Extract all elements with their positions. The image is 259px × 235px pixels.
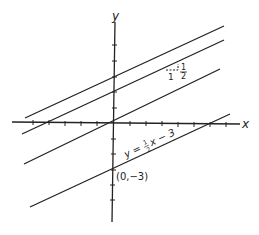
slope-rise-num: 1: [181, 63, 186, 72]
line-intercept-3: [25, 26, 224, 118]
svg-text:y =: y =: [121, 142, 142, 160]
y-axis: [112, 22, 115, 222]
y-axis-label: y: [111, 9, 120, 23]
equation-label: y = 1 2 x − 3: [121, 126, 178, 163]
slope-run-label: 1: [168, 72, 174, 82]
line-intercept-neg3: [30, 114, 230, 207]
x-axis-label: x: [241, 117, 250, 131]
coordinate-diagram: y x 1 1 2 y = 1 2 x − 3 (0,−3): [0, 0, 259, 235]
slope-rise-den: 2: [181, 72, 186, 81]
point-label: (0,−3): [116, 171, 148, 182]
line-intercept-2: [22, 40, 224, 134]
